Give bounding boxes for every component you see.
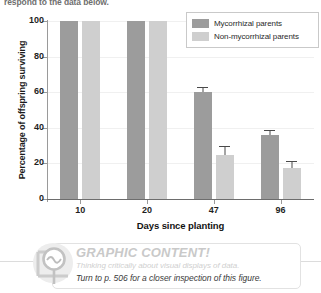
y-tick-label: 0 xyxy=(39,193,44,203)
plot-area: 020406080100 10204796 xyxy=(47,22,314,200)
y-tick-0: 0 xyxy=(47,199,48,200)
x-tick-mark xyxy=(80,200,81,204)
bar-slot xyxy=(82,21,100,199)
bar-10-series0[interactable] xyxy=(60,21,78,199)
y-tick-label: 100 xyxy=(29,15,44,25)
x-tick-mark xyxy=(281,200,282,204)
y-axis-title: Percentage of offspring surviving xyxy=(17,25,27,195)
x-tick-mark xyxy=(147,200,148,204)
error-bar-cap-top xyxy=(219,146,230,147)
error-bar-cap-top xyxy=(286,161,297,162)
legend-label-non-mycorrhizal: Non-mycorrhizal parents xyxy=(214,32,299,41)
legend-swatch-non-mycorrhizal xyxy=(192,32,209,41)
figure-root: respond to the data below. Percentage of… xyxy=(0,0,321,293)
magnifier-chart-icon xyxy=(32,242,76,288)
banner-subtitle: Thinking critically about visual display… xyxy=(76,260,306,271)
bar-slot xyxy=(60,21,78,199)
bar-20-series0[interactable] xyxy=(127,21,145,199)
legend-item-mycorrhizal[interactable]: Mycorrhizal parents xyxy=(192,17,313,30)
y-tick-label: 60 xyxy=(34,86,44,96)
banner-cta: Turn to p. 506 for a closer inspection o… xyxy=(76,272,306,284)
x-axis-line xyxy=(47,199,314,200)
bar-group-bars xyxy=(114,21,181,199)
bar-10-series1[interactable] xyxy=(82,21,100,199)
x-tick-label-10: 10 xyxy=(47,205,114,215)
bar-slot xyxy=(149,21,167,199)
legend-item-non-mycorrhizal[interactable]: Non-mycorrhizal parents xyxy=(192,30,313,43)
chart-legend: Mycorrhizal parents Non-mycorrhizal pare… xyxy=(186,12,319,48)
bar-96-series1[interactable] xyxy=(283,168,301,199)
banner-title: GRAPHIC CONTENT! xyxy=(76,246,306,260)
bar-47-series1[interactable] xyxy=(216,155,234,200)
legend-label-mycorrhizal: Mycorrhizal parents xyxy=(214,19,282,28)
error-bar-cap-top xyxy=(264,130,275,131)
error-bar-cap-top xyxy=(197,87,208,88)
x-tick-label-47: 47 xyxy=(181,205,248,215)
legend-swatch-mycorrhizal xyxy=(192,19,209,28)
x-tick-mark xyxy=(214,200,215,204)
x-tick-label-96: 96 xyxy=(247,205,314,215)
bar-96-series0[interactable] xyxy=(261,135,279,199)
bar-group-bars xyxy=(47,21,114,199)
y-tick-label: 80 xyxy=(34,51,44,61)
x-axis-title: Days since planting xyxy=(47,220,314,231)
bar-slot xyxy=(127,21,145,199)
banner-text-block: GRAPHIC CONTENT! Thinking critically abo… xyxy=(76,246,306,284)
bar-group-10: 10 xyxy=(47,21,114,199)
y-tick-label: 40 xyxy=(34,122,44,132)
prompt-text: respond to the data below. xyxy=(4,0,204,7)
bar-47-series0[interactable] xyxy=(194,92,212,199)
bar-group-20: 20 xyxy=(114,21,181,199)
y-tick-label: 20 xyxy=(34,157,44,167)
bar-20-series1[interactable] xyxy=(149,21,167,199)
x-tick-label-20: 20 xyxy=(114,205,181,215)
